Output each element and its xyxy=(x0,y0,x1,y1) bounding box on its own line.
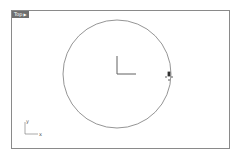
axis-label-x: x xyxy=(39,131,42,137)
origin-axes-icon xyxy=(117,56,136,74)
crosshair-cursor-icon xyxy=(165,72,173,81)
drawing-canvas[interactable]: y x xyxy=(0,0,240,159)
axis-label-y: y xyxy=(26,118,29,125)
